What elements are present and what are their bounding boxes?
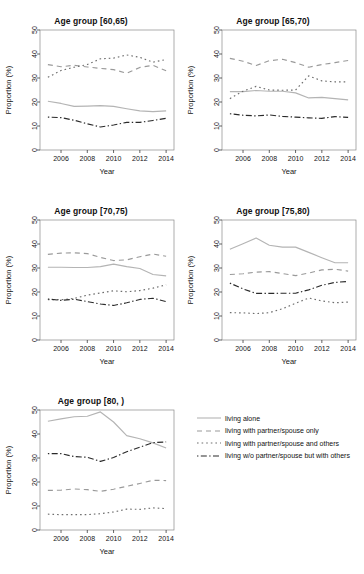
y-axis-title: Proportion (%) (4, 65, 13, 114)
y-tick-label: 30 (213, 264, 220, 272)
x-axis-title: Year (281, 357, 297, 366)
x-tick-label: 2012 (132, 155, 148, 162)
legend-key-no-partner-others (196, 451, 222, 461)
x-tick-label: 2010 (106, 345, 122, 352)
chart-legend: living alone living with partner/spouse … (196, 412, 364, 474)
y-tick-label: 40 (31, 240, 38, 248)
y-tick-label: 20 (213, 288, 220, 296)
y-tick-label: 10 (31, 122, 38, 130)
y-tick-label: 30 (31, 264, 38, 272)
y-tick-label: 40 (213, 50, 220, 58)
x-tick-label: 2008 (80, 535, 96, 542)
chart-panel-4: Age group [80, ) 01020304050200620082010… (0, 380, 182, 570)
x-tick-label: 2006 (53, 155, 69, 162)
y-tick-label: 10 (31, 502, 38, 510)
y-tick-label: 10 (31, 312, 38, 320)
plot-area: 0102030405020062008201020122014YearPropo… (0, 190, 182, 380)
legend-label: living with partner/spouse only (225, 427, 319, 434)
y-tick-label: 10 (213, 122, 220, 130)
y-tick-label: 0 (31, 148, 38, 152)
plot-area: 0102030405020062008201020122014YearPropo… (0, 380, 182, 570)
x-tick-label: 2014 (340, 345, 356, 352)
x-tick-label: 2010 (106, 155, 122, 162)
plot-frame (40, 410, 174, 530)
plot-frame (222, 30, 356, 150)
x-tick-label: 2012 (314, 345, 330, 352)
y-tick-label: 50 (31, 26, 38, 34)
y-tick-label: 0 (213, 338, 220, 342)
x-axis-title: Year (99, 167, 115, 176)
y-tick-label: 30 (31, 74, 38, 82)
series-line-partner-only (230, 269, 348, 275)
series-line-partner-others (230, 298, 348, 314)
x-tick-label: 2014 (158, 345, 174, 352)
x-tick-label: 2012 (132, 345, 148, 352)
x-tick-label: 2008 (80, 155, 96, 162)
y-tick-label: 20 (213, 98, 220, 106)
series-line-partner-others (230, 76, 348, 99)
x-axis-title: Year (281, 167, 297, 176)
y-axis-title: Proportion (%) (186, 255, 195, 304)
y-tick-label: 0 (31, 338, 38, 342)
y-axis-title: Proportion (%) (4, 445, 13, 494)
y-tick-label: 20 (31, 478, 38, 486)
series-line-living-alone (48, 101, 166, 111)
x-tick-label: 2012 (132, 535, 148, 542)
series-line-partner-only (230, 58, 348, 67)
y-axis-title: Proportion (%) (186, 65, 195, 114)
x-tick-label: 2006 (235, 155, 251, 162)
x-tick-label: 2008 (80, 345, 96, 352)
x-tick-label: 2008 (262, 345, 278, 352)
legend-item: living alone (196, 412, 364, 425)
series-line-living-alone (230, 90, 348, 99)
series-line-no-partner-others (230, 114, 348, 119)
chart-panel-0: Age group [60,65) 0102030405020062008201… (0, 0, 182, 190)
legend-label: living with partner/spouse and others (225, 440, 339, 447)
y-axis-title: Proportion (%) (4, 255, 13, 304)
plot-frame (40, 220, 174, 340)
y-tick-label: 50 (213, 216, 220, 224)
plot-area: 0102030405020062008201020122014YearPropo… (0, 0, 182, 190)
x-tick-label: 2010 (288, 345, 304, 352)
x-tick-label: 2008 (262, 155, 278, 162)
y-tick-label: 50 (31, 216, 38, 224)
legend-item: living with partner/spouse only (196, 425, 364, 438)
x-tick-label: 2014 (158, 155, 174, 162)
legend-item: living w/o partner/spouse but with other… (196, 450, 364, 463)
y-tick-label: 0 (31, 528, 38, 532)
plot-area: 0102030405020062008201020122014YearPropo… (182, 0, 364, 190)
plot-area: 0102030405020062008201020122014YearPropo… (182, 190, 364, 380)
series-line-partner-only (48, 480, 166, 491)
chart-panel-1: Age group [65,70) 0102030405020062008201… (182, 0, 364, 190)
series-line-no-partner-others (48, 117, 166, 127)
legend-label: living w/o partner/spouse but with other… (225, 452, 350, 459)
x-axis-title: Year (99, 547, 115, 556)
x-tick-label: 2014 (158, 535, 174, 542)
x-tick-label: 2010 (288, 155, 304, 162)
figure-root: Age group [60,65) 0102030405020062008201… (0, 0, 364, 574)
y-tick-label: 30 (31, 454, 38, 462)
plot-frame (222, 220, 356, 340)
series-line-no-partner-others (48, 442, 166, 461)
x-tick-label: 2006 (53, 345, 69, 352)
y-tick-label: 40 (31, 50, 38, 58)
series-line-partner-others (48, 508, 166, 515)
y-tick-label: 50 (31, 406, 38, 414)
legend-key-partner-others (196, 438, 222, 448)
x-tick-label: 2012 (314, 155, 330, 162)
x-axis-title: Year (99, 357, 115, 366)
x-tick-label: 2006 (53, 535, 69, 542)
legend-key-partner-only (196, 426, 222, 436)
chart-panel-2: Age group [70,75) 0102030405020062008201… (0, 190, 182, 380)
y-tick-label: 40 (213, 240, 220, 248)
series-line-no-partner-others (48, 298, 166, 305)
legend-key-living-alone (196, 413, 222, 423)
x-tick-label: 2006 (235, 345, 251, 352)
series-line-no-partner-others (230, 281, 348, 293)
legend-item: living with partner/spouse and others (196, 437, 364, 450)
y-tick-label: 50 (213, 26, 220, 34)
series-line-partner-others (48, 285, 166, 300)
y-tick-label: 30 (213, 74, 220, 82)
legend-label: living alone (225, 415, 260, 422)
series-line-living-alone (48, 264, 166, 276)
